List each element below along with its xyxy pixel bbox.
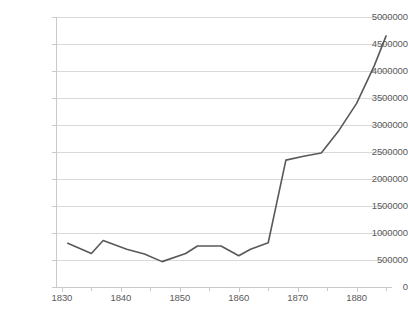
x-axis-minor-tick-mark — [150, 288, 151, 291]
x-axis: 183018401850186018701880 — [0, 0, 408, 314]
x-axis-minor-tick-mark — [327, 288, 328, 291]
y-axis-line — [56, 17, 57, 288]
x-axis-minor-tick-mark — [209, 288, 210, 291]
x-axis-tick-mark — [62, 288, 63, 292]
x-axis-tick-label: 1880 — [334, 292, 380, 303]
x-axis-tick-label: 1850 — [157, 292, 203, 303]
x-axis-tick-label: 1860 — [216, 292, 262, 303]
x-axis-tick-mark — [121, 288, 122, 292]
x-axis-minor-tick-mark — [91, 288, 92, 291]
x-axis-tick-label: 1840 — [98, 292, 144, 303]
x-axis-tick-label: 1870 — [275, 292, 321, 303]
x-axis-tick-mark — [357, 288, 358, 292]
chart-container: 0500000100000015000002000000250000030000… — [0, 0, 408, 314]
x-axis-tick-mark — [180, 288, 181, 292]
x-axis-minor-tick-mark — [268, 288, 269, 291]
x-axis-line — [56, 287, 392, 288]
x-axis-minor-tick-mark — [386, 288, 387, 291]
x-axis-tick-label: 1830 — [39, 292, 85, 303]
x-axis-tick-mark — [298, 288, 299, 292]
x-axis-tick-mark — [239, 288, 240, 292]
